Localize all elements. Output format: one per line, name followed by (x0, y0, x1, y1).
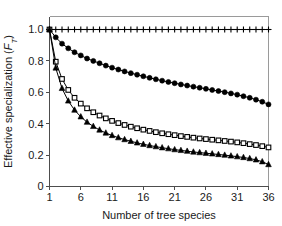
data-point-circle (228, 91, 233, 96)
data-point-square (241, 141, 246, 146)
series-plus-series (47, 27, 272, 33)
data-point-square (222, 139, 227, 144)
data-point-plus (140, 27, 146, 33)
data-point-square (216, 138, 221, 143)
data-point-plus (153, 27, 159, 33)
data-point-triangle (91, 123, 97, 128)
x-axis-title: Number of tree species (102, 209, 216, 221)
data-point-square (97, 113, 102, 118)
data-point-circle (222, 90, 227, 95)
data-point-plus (203, 27, 209, 33)
data-point-square (166, 132, 171, 137)
data-point-square (78, 101, 83, 106)
data-point-plus (128, 27, 134, 33)
data-point-circle (110, 65, 115, 70)
data-point-circle (197, 85, 202, 90)
y-tick-label: 0.8 (28, 55, 43, 67)
y-tick-label: 1.0 (28, 23, 43, 35)
data-point-plus (122, 27, 128, 33)
data-point-plus (159, 27, 165, 33)
data-point-square (104, 116, 109, 121)
x-tick-label: 21 (169, 191, 181, 203)
data-point-plus (84, 27, 90, 33)
data-point-square (210, 137, 215, 142)
data-point-plus (115, 27, 121, 33)
data-point-plus (259, 27, 265, 33)
data-point-circle (78, 53, 83, 58)
data-point-square (247, 142, 252, 147)
x-tick-label: 6 (78, 191, 84, 203)
data-point-plus (228, 27, 234, 33)
data-point-circle (141, 74, 146, 79)
data-point-plus (215, 27, 221, 33)
data-point-square (91, 110, 96, 115)
data-point-plus (184, 27, 190, 33)
y-axis-title: Effective specialization (FT) (2, 35, 19, 168)
data-point-plus (190, 27, 196, 33)
x-tick-label: 1 (46, 191, 52, 203)
data-point-plus (97, 27, 103, 33)
data-point-circle (266, 102, 271, 107)
data-point-plus (165, 27, 171, 33)
data-point-circle (97, 61, 102, 66)
data-point-circle (178, 82, 183, 87)
data-point-square (179, 134, 184, 139)
x-tick-label: 31 (231, 191, 243, 203)
data-point-circle (216, 89, 221, 94)
x-tick-label: 26 (200, 191, 212, 203)
data-point-triangle (97, 127, 103, 132)
data-point-plus (90, 27, 96, 33)
data-point-plus (178, 27, 184, 33)
data-point-square (260, 144, 265, 149)
data-point-square (116, 121, 121, 126)
series-line-open-square-series (50, 30, 269, 148)
data-point-plus (109, 27, 115, 33)
y-tick-label: 0 (37, 180, 43, 192)
y-tick-label: 0.2 (28, 149, 43, 161)
data-point-square (129, 124, 134, 129)
data-point-square (254, 143, 259, 148)
data-point-circle (147, 75, 152, 80)
data-point-square (266, 145, 271, 150)
data-point-plus (197, 27, 203, 33)
data-point-circle (247, 95, 252, 100)
x-tick-label: 36 (262, 191, 274, 203)
data-point-plus (78, 27, 84, 33)
data-point-circle (135, 72, 140, 77)
data-point-circle (160, 78, 165, 83)
data-point-square (110, 119, 115, 124)
data-point-square (204, 137, 209, 142)
data-point-square (141, 127, 146, 132)
data-point-triangle (65, 98, 71, 103)
data-point-square (191, 135, 196, 140)
series-open-square-series (47, 27, 271, 150)
data-point-circle (166, 79, 171, 84)
x-tick-label: 11 (106, 191, 117, 203)
tick-labels-layer: 00.20.40.60.81.016111621263136 (28, 23, 274, 202)
y-tick-label: 0.4 (28, 118, 43, 130)
data-point-circle (103, 63, 108, 68)
data-point-plus (59, 27, 65, 33)
data-point-square (72, 95, 77, 100)
data-point-circle (185, 83, 190, 88)
data-point-circle (60, 41, 65, 46)
data-point-circle (191, 84, 196, 89)
data-point-circle (253, 97, 258, 102)
data-point-square (147, 129, 152, 134)
figure-container: 00.20.40.60.81.016111621263136 Number of… (0, 0, 282, 226)
data-point-circle (53, 35, 58, 40)
data-point-plus (247, 27, 253, 33)
data-point-square (172, 133, 177, 138)
data-point-square (160, 131, 165, 136)
data-point-square (185, 135, 190, 140)
data-point-circle (122, 69, 127, 74)
data-point-circle (210, 87, 215, 92)
data-point-circle (241, 94, 246, 99)
data-point-circle (116, 67, 121, 72)
data-point-square (85, 106, 90, 111)
data-point-plus (222, 27, 228, 33)
data-point-plus (53, 27, 59, 33)
data-point-plus (134, 27, 140, 33)
data-point-square (122, 123, 127, 128)
y-tick-label: 0.6 (28, 86, 43, 98)
